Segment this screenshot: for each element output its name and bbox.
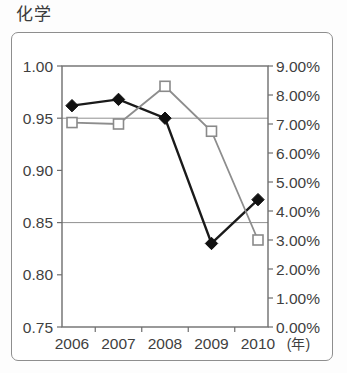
chart-figure: 化学 1.000.950.900.850.800.759.00%8.00%7.0… [0,0,347,373]
page-title: 化学 [16,4,51,26]
figure-border [11,32,333,361]
